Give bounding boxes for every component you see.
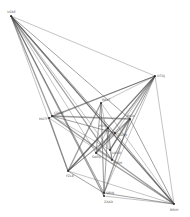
- node-n2: [154, 75, 156, 77]
- network-graph: VGKEOTDJBRHYCDGAMUTFFZLBQBINZXADHEPCLWSO…: [0, 0, 190, 217]
- edge-n2-n9: [108, 76, 155, 128]
- node-n6: [67, 170, 69, 172]
- node-label: OTDJ: [157, 74, 165, 78]
- node-label: VGKE: [7, 10, 16, 14]
- edge-n1-n12: [11, 16, 130, 119]
- node-n7: [103, 192, 105, 194]
- node-label: RKVT: [102, 98, 110, 102]
- node-n12: [129, 118, 131, 120]
- edge-n3-n6: [68, 171, 174, 204]
- node-label: TODW: [116, 133, 128, 137]
- node-label: MUTF: [39, 117, 48, 121]
- node-n15: [114, 132, 116, 134]
- edge-n2-n15: [115, 76, 155, 133]
- node-label: ZXAD: [104, 200, 114, 204]
- node-label: LWSO: [112, 151, 122, 155]
- node-label: JNUX: [126, 114, 136, 118]
- node-label: HEPC: [99, 124, 108, 128]
- edge-n1-n8: [11, 16, 104, 196]
- node-label: CDGA: [54, 111, 64, 115]
- edge-layer: [11, 16, 174, 204]
- node-n1: [10, 15, 12, 17]
- node-label: SAEQ: [92, 155, 101, 159]
- node-n14: [95, 152, 97, 154]
- edge-n1-n13: [11, 16, 112, 160]
- node-label: QBIN: [106, 191, 115, 195]
- node-label: FZLB: [66, 174, 74, 178]
- node-n8: [103, 195, 105, 197]
- node-n10: [109, 149, 111, 151]
- edge-n3-n7: [104, 193, 174, 204]
- node-n11: [100, 102, 102, 104]
- node-n4: [51, 115, 53, 117]
- node-n5: [48, 117, 50, 119]
- node-label: PYGM: [113, 161, 122, 165]
- node-n3: [173, 203, 175, 205]
- node-label: BRHY: [170, 208, 179, 212]
